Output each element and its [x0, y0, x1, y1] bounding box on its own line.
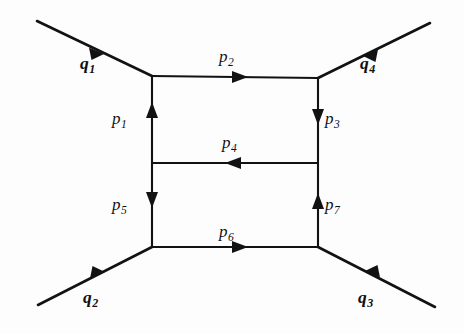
arrow-head-p3	[312, 109, 324, 125]
internal-edge-p3	[312, 78, 324, 163]
arrow-head-p2	[232, 71, 248, 83]
momentum-label-p2: p2	[219, 48, 234, 68]
internal-edge-p2	[152, 71, 318, 83]
feynman-diagram: p1 p2 p3 p4 p5 p6 p7 q1 q2 q3 q4	[0, 0, 464, 333]
momentum-label-p5: p5	[112, 196, 127, 216]
momentum-label-p6: p6	[219, 223, 234, 243]
momentum-label-p1: p1	[112, 110, 127, 130]
momentum-label-p3: p3	[325, 110, 340, 130]
internal-edge-p5	[146, 163, 158, 247]
arrow-head-p4	[225, 157, 241, 169]
arrow-head-p5	[146, 192, 158, 208]
internal-edge-p4	[152, 157, 318, 169]
internal-edge-p7	[312, 163, 324, 247]
arrow-head-p7	[312, 193, 324, 209]
arrow-head-p1	[146, 102, 158, 118]
external-leg-q3	[318, 247, 435, 307]
arrow-head-p6	[232, 241, 248, 253]
momentum-label-q4: q4	[360, 55, 375, 75]
internal-edge-p1	[146, 76, 158, 163]
momentum-label-q2: q2	[83, 289, 98, 309]
momentum-label-q3: q3	[358, 289, 373, 309]
internal-edge-p6	[152, 241, 318, 253]
arrow-head-q2	[90, 266, 105, 279]
momentum-label-p7: p7	[325, 196, 340, 216]
momentum-label-q1: q1	[80, 55, 95, 75]
momentum-label-p4: p4	[222, 134, 237, 154]
